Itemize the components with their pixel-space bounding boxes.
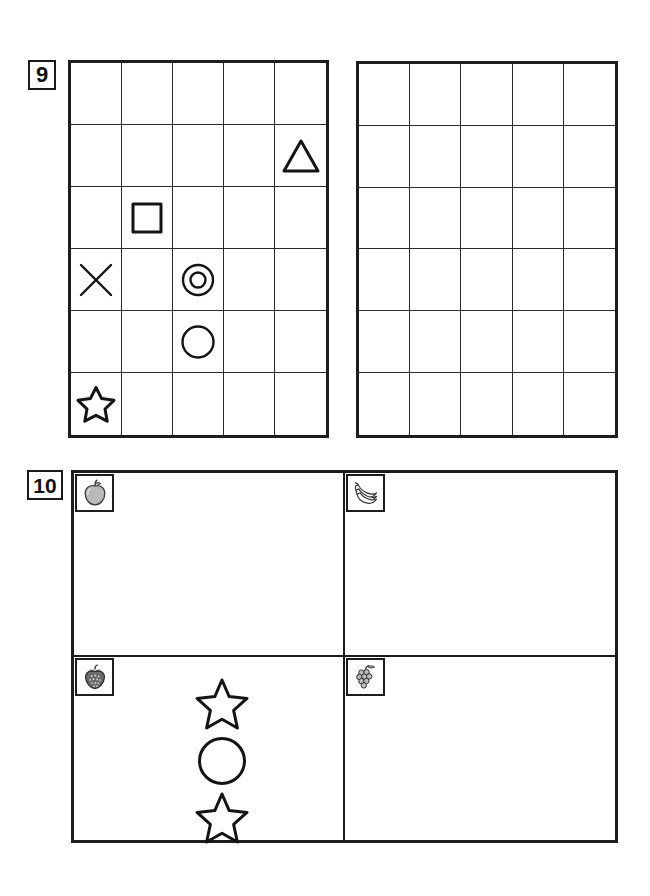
fruit-marker-box	[75, 474, 114, 512]
grid-cell[interactable]	[564, 64, 615, 126]
grid-cell[interactable]	[359, 311, 410, 373]
fruit-marker-box	[75, 658, 114, 696]
grid-cell[interactable]	[513, 249, 564, 311]
grid-cell[interactable]	[461, 249, 512, 311]
grid-cell[interactable]	[359, 64, 410, 126]
grid-cell[interactable]	[410, 249, 461, 311]
grid-cell[interactable]	[224, 125, 275, 187]
grid-cell[interactable]	[564, 373, 615, 435]
grid-cell[interactable]	[71, 373, 122, 435]
grid-cell[interactable]	[513, 311, 564, 373]
circle-icon	[179, 323, 217, 361]
shape-stack	[162, 677, 282, 845]
grid-cell[interactable]	[461, 311, 512, 373]
grid-cell[interactable]	[173, 249, 224, 311]
worksheet-page: 9	[0, 0, 650, 896]
strawberry-icon	[82, 663, 108, 691]
grid-cell[interactable]	[224, 249, 275, 311]
quadrant-top-left[interactable]	[74, 473, 345, 657]
grid-cell[interactable]	[410, 311, 461, 373]
grid-cell[interactable]	[173, 63, 224, 125]
grapes-icon	[353, 663, 379, 691]
star-icon	[194, 677, 250, 731]
grid-cell[interactable]	[275, 187, 326, 249]
star-icon	[76, 384, 116, 424]
apple-icon	[82, 479, 108, 507]
grid-cell[interactable]	[224, 373, 275, 435]
grid-cell[interactable]	[564, 188, 615, 250]
grid-cell[interactable]	[173, 311, 224, 373]
circle-icon	[196, 735, 248, 787]
banana-icon	[352, 480, 380, 506]
grid-cell[interactable]	[564, 126, 615, 188]
grid-cell[interactable]	[275, 373, 326, 435]
problem-number-badge-10: 10	[27, 470, 63, 500]
grid-cell[interactable]	[71, 311, 122, 373]
cross-icon	[77, 261, 115, 299]
grid-cell[interactable]	[224, 187, 275, 249]
grid-cell[interactable]	[564, 249, 615, 311]
problem-9-model-grid	[68, 60, 329, 438]
star-icon	[194, 791, 250, 845]
double-circle-icon	[179, 261, 217, 299]
grid-cell[interactable]	[461, 126, 512, 188]
problem-number-badge-9: 9	[28, 60, 56, 90]
grid-cell[interactable]	[359, 126, 410, 188]
grid-cell[interactable]	[359, 373, 410, 435]
quadrant-bottom-left[interactable]	[74, 657, 345, 840]
quadrant-top-right[interactable]	[345, 473, 615, 657]
grid-cell[interactable]	[410, 64, 461, 126]
grid-cell[interactable]	[224, 63, 275, 125]
grid-cell[interactable]	[173, 373, 224, 435]
grid-cell[interactable]	[410, 373, 461, 435]
grid-cell[interactable]	[122, 187, 173, 249]
grid-cell[interactable]	[122, 373, 173, 435]
grid-cell[interactable]	[173, 125, 224, 187]
grid-cell[interactable]	[359, 249, 410, 311]
grid-cell[interactable]	[71, 187, 122, 249]
grid-cell[interactable]	[224, 311, 275, 373]
grid-cell[interactable]	[275, 311, 326, 373]
fruit-marker-box	[346, 474, 385, 512]
fruit-marker-box	[346, 658, 385, 696]
problem-10-box	[71, 470, 618, 843]
grid-cell[interactable]	[461, 373, 512, 435]
square-icon	[130, 201, 164, 235]
triangle-icon	[281, 138, 321, 174]
grid-cell[interactable]	[275, 249, 326, 311]
grid-cell[interactable]	[275, 63, 326, 125]
grid-cell[interactable]	[71, 125, 122, 187]
grid-cell[interactable]	[461, 188, 512, 250]
grid-cell[interactable]	[122, 311, 173, 373]
grid-cell[interactable]	[513, 126, 564, 188]
grid-cell[interactable]	[122, 249, 173, 311]
grid-cell[interactable]	[122, 125, 173, 187]
grid-cell[interactable]	[513, 64, 564, 126]
grid-cell[interactable]	[513, 373, 564, 435]
grid-cell[interactable]	[410, 126, 461, 188]
grid-cell[interactable]	[410, 188, 461, 250]
grid-cell[interactable]	[461, 64, 512, 126]
grid-cell[interactable]	[71, 63, 122, 125]
grid-cell[interactable]	[275, 125, 326, 187]
grid-cell[interactable]	[122, 63, 173, 125]
quadrant-bottom-right[interactable]	[345, 657, 615, 840]
grid-cell[interactable]	[359, 188, 410, 250]
problem-9-answer-grid	[356, 61, 618, 438]
grid-cell[interactable]	[71, 249, 122, 311]
grid-cell[interactable]	[173, 187, 224, 249]
grid-cell[interactable]	[564, 311, 615, 373]
grid-cell[interactable]	[513, 188, 564, 250]
